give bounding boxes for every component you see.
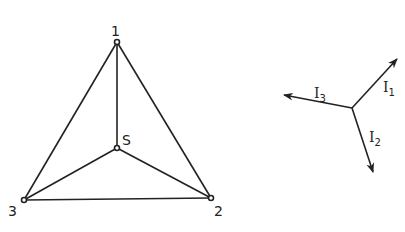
- edge-3-2: [24, 198, 211, 200]
- phasor-i2-label: I2: [369, 129, 381, 148]
- phasor-diagram: [284, 59, 397, 172]
- node-3-marker: [22, 198, 27, 203]
- edge-1-2: [117, 42, 211, 198]
- node-s-marker: [115, 146, 120, 151]
- node-1-label: 1: [111, 23, 120, 39]
- edge-s-3: [24, 148, 117, 200]
- node-2-label: 2: [214, 203, 223, 219]
- network-diagram: [22, 40, 214, 203]
- node-2-marker: [209, 196, 214, 201]
- edge-1-3: [24, 42, 117, 200]
- node-s-label: S: [122, 132, 131, 148]
- diagram-canvas: 1 2 3 S I1 I2 I3: [0, 0, 405, 232]
- phasor-i1-label: I1: [383, 79, 395, 98]
- node-1-marker: [115, 40, 120, 45]
- edge-s-2: [117, 148, 211, 198]
- node-3-label: 3: [8, 203, 17, 219]
- phasor-i1-arrow: [352, 59, 397, 108]
